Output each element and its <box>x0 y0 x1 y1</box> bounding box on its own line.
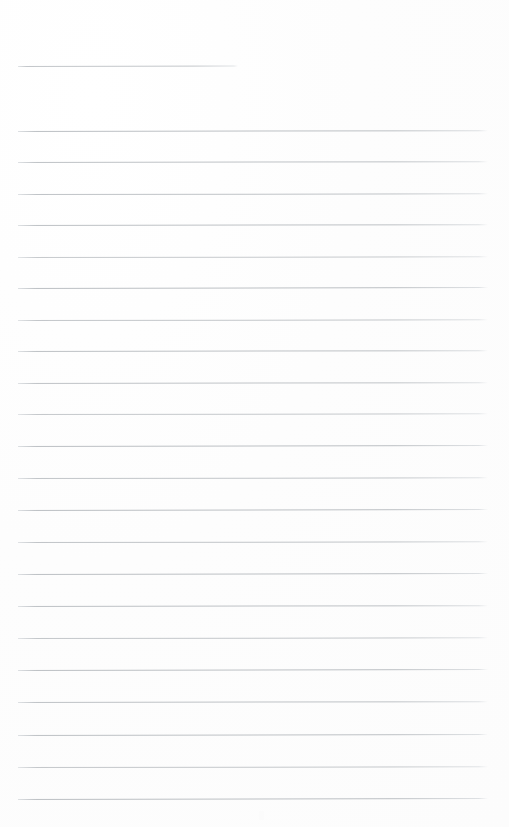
body-rule-line <box>18 350 488 352</box>
body-rule-line <box>18 287 488 289</box>
body-rule-line <box>18 766 488 768</box>
scanned-page <box>0 0 509 827</box>
body-rule-line <box>18 477 488 479</box>
scan-artifact-smudge <box>259 811 264 820</box>
body-rule-line <box>18 319 488 321</box>
body-rule-line <box>18 669 488 671</box>
body-rule-line <box>18 798 488 800</box>
body-rule-line <box>18 382 488 384</box>
body-rule-line <box>18 605 488 607</box>
body-rule-line <box>18 130 488 132</box>
body-rule-line <box>18 161 488 163</box>
body-rule-line <box>18 224 488 226</box>
body-rule-line <box>18 701 488 703</box>
body-rule-line <box>18 509 488 511</box>
body-rule-line <box>18 573 488 575</box>
body-rule-line <box>18 541 488 543</box>
body-rule-line <box>18 413 488 415</box>
body-rule-line <box>18 193 488 195</box>
body-rule-line <box>18 734 488 736</box>
body-rule-line <box>18 256 488 258</box>
title-rule-line <box>18 66 238 67</box>
body-rule-line <box>18 637 488 639</box>
body-rule-line <box>18 445 488 447</box>
